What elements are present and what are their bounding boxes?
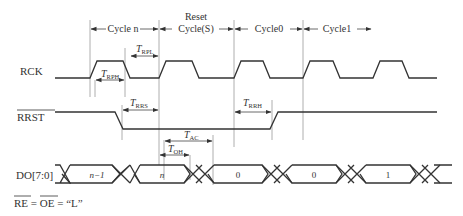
data-value-0b: 0 — [312, 170, 317, 180]
svg-text:TOH: TOH — [168, 143, 183, 155]
svg-text:TAC: TAC — [184, 129, 199, 141]
t-rrs-annotation: TRRS — [123, 97, 158, 110]
data-value-1: 1 — [386, 170, 391, 180]
do-bus-waveform — [55, 165, 452, 183]
rrst-label: RRST — [17, 111, 45, 123]
data-value-n-minus-1: n−1 — [89, 170, 104, 180]
t-rpl-annotation: TRPL — [131, 43, 158, 56]
rck-label: RCK — [20, 65, 43, 77]
reset-cycle-label: Cycle(S) — [178, 23, 214, 35]
cycle-n-label: Cycle n — [108, 23, 139, 34]
guide-lines — [90, 20, 303, 185]
do-label: DO[7:0] — [16, 169, 53, 181]
svg-text:TRPH: TRPH — [101, 68, 120, 80]
t-ac-annotation: TAC — [165, 129, 212, 141]
cycle-labels: Cycle n Reset Cycle(S) Cycle0 Cycle1 — [91, 11, 371, 35]
svg-text:TRRH: TRRH — [243, 97, 262, 109]
data-value-0a: 0 — [236, 170, 241, 180]
svg-text:RE = OE = “L”: RE = OE = “L” — [14, 197, 83, 209]
svg-text:TRPL: TRPL — [136, 43, 154, 55]
data-value-n: n — [160, 170, 165, 180]
reset-label: Reset — [185, 11, 207, 22]
rrst-waveform — [55, 112, 437, 129]
t-rph-annotation: TRPH — [96, 68, 124, 80]
footnote: RE = OE = “L” — [14, 196, 83, 209]
cycle0-label: Cycle0 — [255, 23, 283, 34]
t-rrh-annotation: TRRH — [235, 97, 271, 112]
timing-diagram: Cycle n Reset Cycle(S) Cycle0 Cycle1 RCK… — [0, 0, 463, 216]
svg-text:TRRS: TRRS — [130, 97, 148, 109]
cycle1-label: Cycle1 — [323, 23, 351, 34]
